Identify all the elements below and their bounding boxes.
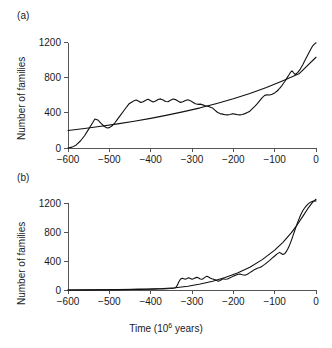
x-tick-label: −600: [57, 296, 80, 307]
y-tick-label: 1200: [39, 37, 62, 48]
x-tick-label: −200: [222, 154, 245, 165]
y-tick-label: 800: [44, 227, 61, 238]
x-tick-label: −100: [263, 296, 286, 307]
panel-b-xlabel: Time (106 years): [0, 323, 332, 334]
fitted-exponential-trend: [68, 57, 316, 130]
panel-a: (a) Number of families 04008001200−600−5…: [0, 0, 332, 174]
x-tick-label: 0: [313, 296, 319, 307]
fitted-exponential-trend: [68, 199, 316, 290]
figure-container: (a) Number of families 04008001200−600−5…: [0, 0, 332, 348]
y-tick-label: 0: [55, 285, 61, 296]
x-tick-label: −600: [57, 154, 80, 165]
xlabel-prefix: Time (10: [129, 323, 168, 334]
x-tick-label: −400: [139, 296, 162, 307]
x-tick-label: 0: [313, 154, 319, 165]
y-tick-label: 0: [55, 143, 61, 154]
y-tick-label: 400: [44, 256, 61, 267]
y-tick-label: 800: [44, 72, 61, 83]
y-tick-label: 1200: [39, 198, 62, 209]
x-tick-label: −500: [98, 154, 121, 165]
panel-b-plot: 04008001200−600−500−400−300−200−1000: [0, 168, 332, 318]
observed-family-diversity: [68, 43, 316, 148]
x-tick-label: −400: [139, 154, 162, 165]
x-tick-label: −100: [263, 154, 286, 165]
x-tick-label: −200: [222, 296, 245, 307]
x-tick-label: −300: [181, 154, 204, 165]
x-tick-label: −300: [181, 296, 204, 307]
panel-a-plot: 04008001200−600−500−400−300−200−1000: [0, 0, 332, 174]
x-tick-label: −500: [98, 296, 121, 307]
xlabel-suffix: years): [172, 323, 203, 334]
panel-b: (b) Number of families 04008001200−600−5…: [0, 168, 332, 348]
y-tick-label: 400: [44, 107, 61, 118]
